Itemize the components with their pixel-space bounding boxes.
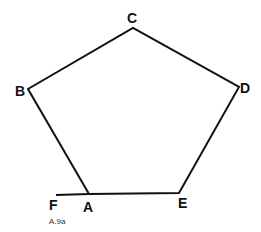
figure-caption: A.9a [49, 218, 65, 226]
point-label-f: F [49, 198, 58, 212]
vertex-label-b: B [15, 84, 25, 98]
pentagon-diagram [0, 0, 261, 232]
extension-line-fa [56, 194, 89, 195]
pentagon-abcde [28, 28, 239, 194]
vertex-label-e: E [178, 196, 187, 210]
vertex-label-a: A [83, 200, 93, 214]
vertex-label-c: C [127, 11, 137, 25]
vertex-label-d: D [240, 81, 250, 95]
